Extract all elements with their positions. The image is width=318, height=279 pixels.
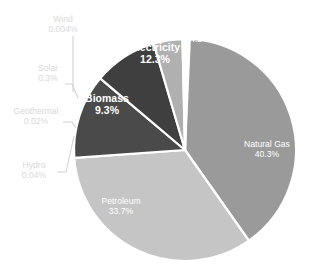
leader-line-geothermal	[63, 122, 76, 128]
leader-line-hydro	[57, 136, 74, 172]
pie-chart: Electricity 12.3% Biomass 9.3% Coal 4.2%…	[0, 0, 318, 279]
leader-line-solar	[65, 84, 78, 98]
pie-slices-group	[74, 39, 296, 261]
pie-chart-canvas	[0, 0, 318, 279]
